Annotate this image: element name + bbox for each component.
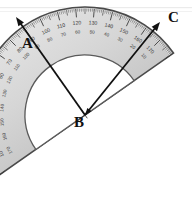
point-label-b: B	[74, 114, 84, 130]
scale-number: 130	[89, 19, 98, 26]
point-label-c: C	[168, 9, 179, 25]
protractor-figure: 1020304050607080901001101201301401501601…	[0, 0, 192, 208]
scale-number: 120	[72, 19, 81, 26]
scale-number: 60	[75, 29, 81, 34]
scale-number: 50	[89, 29, 95, 34]
point-label-a: A	[22, 35, 33, 51]
scale-number: 140	[0, 103, 5, 112]
scale-number: 150	[0, 118, 5, 127]
figure-canvas: 1020304050607080901001101201301401501601…	[0, 0, 192, 208]
